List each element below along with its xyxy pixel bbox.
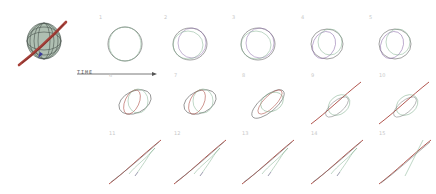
composite-sphere-icon: [14, 17, 74, 69]
stage-number: 3: [232, 14, 235, 20]
stage-number: 4: [301, 14, 304, 20]
stage-panel: 11: [105, 130, 165, 188]
stage-loop-icon: [375, 130, 435, 188]
stage-loop-icon: [307, 72, 367, 130]
stage-loop-icon: [170, 72, 230, 130]
stage-number: 14: [311, 130, 317, 136]
composite-thumbnail: [14, 17, 74, 69]
stage-number: 1: [99, 14, 102, 20]
stage-panel: 5: [365, 14, 425, 72]
stage-number: 8: [242, 72, 245, 78]
stage-panel: 6: [105, 72, 165, 130]
stage-loop-icon: [365, 14, 425, 72]
stage-number: 12: [174, 130, 180, 136]
stage-number: 11: [109, 130, 115, 136]
stage-loop-icon: [105, 130, 165, 188]
stage-loop-icon: [95, 14, 155, 72]
stage-panel: 10: [375, 72, 435, 130]
stage-number: 15: [379, 130, 385, 136]
stage-panel: 13: [238, 130, 298, 188]
stage-loop-icon: [170, 130, 230, 188]
stage-panel: 9: [307, 72, 367, 130]
stage-panel: 8: [238, 72, 298, 130]
stage-loop-icon: [105, 72, 165, 130]
stage-number: 5: [369, 14, 372, 20]
stage-loop-icon: [238, 130, 298, 188]
stage-panel: 15: [375, 130, 435, 188]
time-axis-label: TIME: [77, 69, 93, 75]
stage-number: 2: [164, 14, 167, 20]
stage-loop-icon: [297, 14, 357, 72]
stage-panel: 4: [297, 14, 357, 72]
stage-panel: 2: [160, 14, 220, 72]
stage-number: 9: [311, 72, 314, 78]
stage-number: 13: [242, 130, 248, 136]
stage-panel: 12: [170, 130, 230, 188]
stage-number: 10: [379, 72, 385, 78]
stage-panel: 14: [307, 130, 367, 188]
stage-loop-icon: [375, 72, 435, 130]
stage-loop-icon: [307, 130, 367, 188]
stage-number: 7: [174, 72, 177, 78]
stage-loop-icon: [238, 72, 298, 130]
stage-panel: 7: [170, 72, 230, 130]
stage-number: 6: [109, 72, 112, 78]
stage-panel: 3: [228, 14, 288, 72]
stage-panel: 1: [95, 14, 155, 72]
stage-loop-icon: [228, 14, 288, 72]
stage-loop-icon: [160, 14, 220, 72]
